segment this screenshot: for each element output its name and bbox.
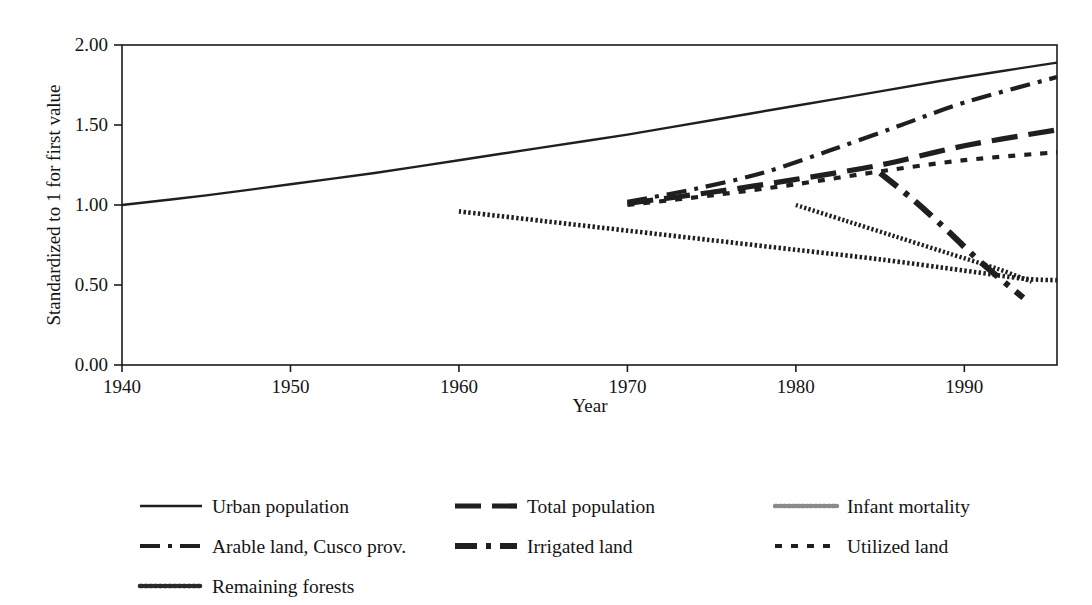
chart-figure: 194019501960197019801990 0.000.501.001.5…	[0, 0, 1092, 605]
legend-label: Remaining forests	[212, 576, 354, 597]
x-tick-label: 1980	[777, 376, 815, 397]
legend-label: Infant mortality	[847, 496, 970, 517]
legend-label: Urban population	[212, 496, 349, 517]
x-tick-label: 1940	[103, 376, 141, 397]
y-tick-label: 1.00	[75, 194, 108, 215]
legend-label: Utilized land	[847, 536, 949, 557]
y-axis-title: Standardized to 1 for first value	[43, 84, 64, 325]
x-axis-title: Year	[572, 395, 608, 416]
x-tick-label: 1950	[271, 376, 309, 397]
legend-label: Total population	[527, 496, 655, 517]
y-tick-label: 1.50	[75, 114, 108, 135]
x-tick-label: 1990	[945, 376, 983, 397]
y-tick-label: 2.00	[75, 34, 108, 55]
x-tick-label: 1960	[440, 376, 478, 397]
chart-canvas: 194019501960197019801990 0.000.501.001.5…	[0, 0, 1092, 605]
y-tick-label: 0.00	[75, 354, 108, 375]
legend-label: Irrigated land	[527, 536, 633, 557]
y-tick-label: 0.50	[75, 274, 108, 295]
x-tick-label: 1970	[608, 376, 646, 397]
legend-label: Arable land, Cusco prov.	[212, 536, 406, 557]
